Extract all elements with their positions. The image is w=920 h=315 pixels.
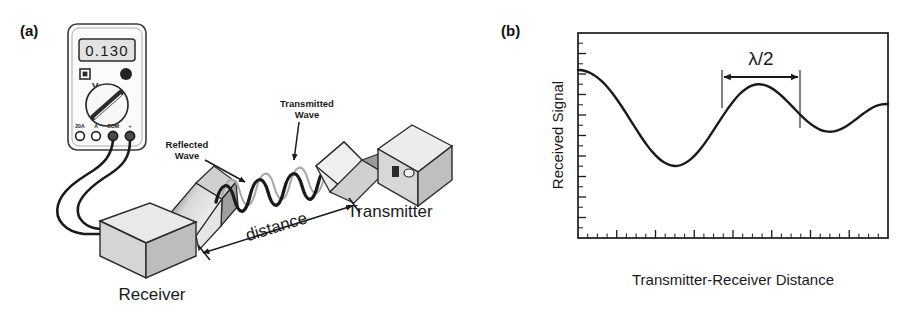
receiver-assembly bbox=[100, 166, 238, 278]
y-axis-title: Received Signal bbox=[549, 81, 566, 189]
multimeter-display-value: 0.130 bbox=[85, 42, 129, 59]
panel-b-label: (b) bbox=[501, 22, 520, 39]
panel-a-label: (a) bbox=[20, 22, 38, 39]
reflected-wave-label-line1: Reflected bbox=[166, 139, 209, 150]
distance-label: distance bbox=[243, 208, 309, 245]
transmitter-indicator-led bbox=[404, 169, 414, 177]
reflected-wave-label-line2: Wave bbox=[175, 150, 199, 161]
lambda-half-label: λ/2 bbox=[748, 48, 773, 69]
terminal-label-plus: + bbox=[128, 123, 131, 129]
terminal-label-20a: 20A bbox=[75, 123, 85, 129]
terminal-jack-plus[interactable] bbox=[125, 131, 134, 140]
transmitter-label: Transmitter bbox=[347, 202, 433, 221]
two-panel-figure: (a) bbox=[0, 0, 920, 315]
transmitted-wave-leader-arrow bbox=[294, 122, 299, 160]
multimeter-hold-button[interactable] bbox=[120, 68, 132, 80]
multimeter-power-button-inner bbox=[83, 72, 88, 77]
transmitted-wave-label-line2: Wave bbox=[295, 109, 319, 120]
panel-b-signal-plot: (b) bbox=[460, 0, 920, 315]
transmitted-wave-callout: Transmitted Wave bbox=[280, 98, 334, 160]
receiver-label: Receiver bbox=[118, 285, 185, 304]
transmitter-assembly bbox=[316, 125, 452, 206]
terminal-label-com: COM bbox=[107, 123, 119, 129]
transmitted-wave-label-line1: Transmitted bbox=[280, 98, 334, 109]
distance-tick-left bbox=[198, 245, 210, 260]
terminal-jack-com[interactable] bbox=[108, 131, 117, 140]
plot-frame bbox=[578, 33, 888, 238]
terminal-jack-a[interactable] bbox=[92, 132, 101, 141]
panel-a-experimental-setup: (a) bbox=[0, 0, 460, 315]
terminal-jack-20a[interactable] bbox=[76, 132, 85, 141]
received-signal-chart: λ/2 Received Signal Transmitter-Receiver… bbox=[460, 0, 920, 315]
x-axis-title: Transmitter-Receiver Distance bbox=[632, 271, 834, 288]
terminal-label-a: A bbox=[94, 123, 98, 129]
setup-schematic: 0.130 V 20A A COM + bbox=[0, 0, 460, 315]
transmitter-switch[interactable] bbox=[392, 166, 399, 177]
digital-multimeter: 0.130 V 20A A COM + bbox=[68, 24, 146, 150]
